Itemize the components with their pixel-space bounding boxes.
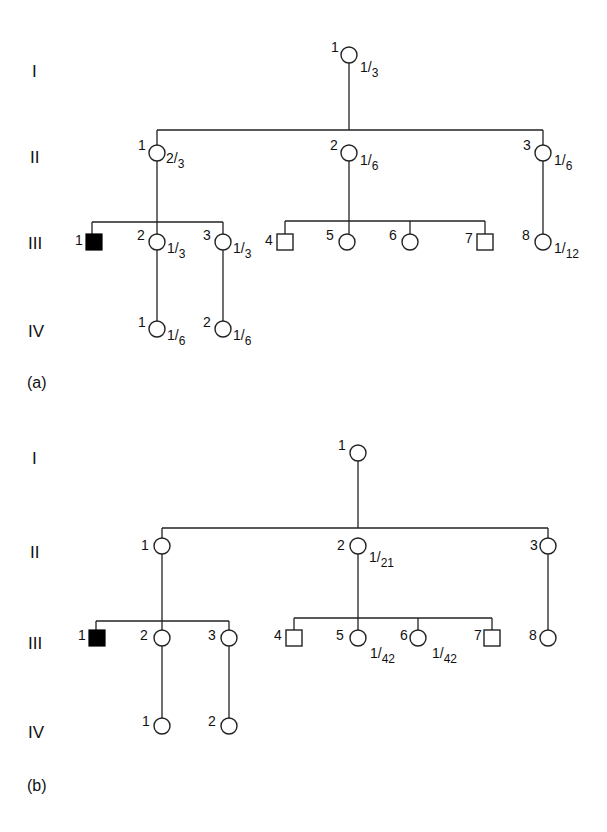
individual-number: 4 xyxy=(265,232,273,248)
carrier-probability: 1/6 xyxy=(554,152,573,173)
carrier-probability: 1/6 xyxy=(167,327,186,348)
individual-III-4[interactable]: 4 xyxy=(274,627,302,646)
individual-III-6[interactable]: 6 1/42 xyxy=(400,627,457,666)
female-symbol xyxy=(535,145,551,161)
generation-label-III: III xyxy=(28,634,42,653)
individual-II-3[interactable]: 3 xyxy=(530,537,556,554)
individual-number: 1 xyxy=(331,39,339,55)
individual-number: 7 xyxy=(474,627,482,643)
generation-label-I: I xyxy=(32,62,37,81)
affected-male-symbol xyxy=(89,630,105,646)
individual-number: 2 xyxy=(337,537,345,553)
individual-number: 1 xyxy=(78,627,86,643)
individual-III-6[interactable]: 6 xyxy=(389,227,418,250)
individual-number: 8 xyxy=(529,627,537,643)
individual-III-2[interactable]: 2 xyxy=(140,627,170,646)
female-symbol xyxy=(149,145,165,161)
pedigree-lines-b xyxy=(96,461,548,718)
carrier-probability: 1/42 xyxy=(432,645,457,666)
female-symbol xyxy=(149,234,165,250)
generation-label-II: II xyxy=(30,543,39,562)
female-symbol xyxy=(149,321,165,337)
carrier-probability: 1/3 xyxy=(360,59,379,80)
generation-label-I: I xyxy=(32,449,37,468)
female-symbol xyxy=(221,630,237,646)
female-symbol xyxy=(339,234,355,250)
individual-number: 2 xyxy=(208,713,216,729)
male-symbol xyxy=(484,630,500,646)
individual-number: 3 xyxy=(208,627,216,643)
individual-number: 1 xyxy=(75,232,83,248)
female-symbol xyxy=(215,321,231,337)
individual-III-8[interactable]: 8 xyxy=(529,627,556,646)
individual-III-5[interactable]: 5 xyxy=(326,227,355,250)
female-symbol xyxy=(154,630,170,646)
carrier-probability: 1/42 xyxy=(370,645,395,666)
female-symbol xyxy=(535,234,551,250)
individual-number: 3 xyxy=(530,537,538,553)
female-symbol xyxy=(350,630,366,646)
individual-IV-2[interactable]: 2 xyxy=(208,713,237,734)
individual-number: 1 xyxy=(138,314,146,330)
individual-IV-1[interactable]: 1 1/6 xyxy=(138,314,186,348)
individual-number: 7 xyxy=(465,230,473,246)
individual-II-3[interactable]: 3 1/6 xyxy=(523,137,573,173)
individual-III-1[interactable]: 1 xyxy=(78,627,105,646)
female-symbol xyxy=(154,538,170,554)
individual-number: 1 xyxy=(141,537,149,553)
individual-III-3[interactable]: 3 1/3 xyxy=(203,227,252,261)
male-symbol xyxy=(277,234,293,250)
individual-III-7[interactable]: 7 xyxy=(474,627,500,646)
individual-III-2[interactable]: 2 1/3 xyxy=(137,227,186,261)
carrier-probability: 1/3 xyxy=(167,240,186,261)
individual-I-1[interactable]: 1 1/3 xyxy=(331,39,379,80)
carrier-probability: 1/12 xyxy=(554,240,579,261)
individual-II-2[interactable]: 2 1/21 xyxy=(337,537,394,570)
female-symbol xyxy=(540,538,556,554)
individual-III-5[interactable]: 5 1/42 xyxy=(336,627,395,666)
individual-IV-1[interactable]: 1 xyxy=(142,713,170,734)
pedigree-lines-a xyxy=(92,63,543,321)
panel-label-b: (b) xyxy=(27,777,47,794)
individual-III-7[interactable]: 7 xyxy=(465,230,493,250)
carrier-probability: 1/6 xyxy=(233,327,252,348)
individual-number: 1 xyxy=(142,713,150,729)
individual-number: 2 xyxy=(140,627,148,643)
individual-number: 5 xyxy=(336,627,344,643)
male-symbol xyxy=(477,234,493,250)
individual-III-1[interactable]: 1 xyxy=(75,232,102,250)
individual-number: 1 xyxy=(138,137,146,153)
individual-III-8[interactable]: 8 1/12 xyxy=(522,227,579,261)
female-symbol xyxy=(350,538,366,554)
individual-number: 2 xyxy=(330,137,338,153)
individual-I-1[interactable]: 1 xyxy=(338,437,366,461)
generation-label-IV: IV xyxy=(28,322,45,341)
individual-number: 5 xyxy=(326,227,334,243)
individual-II-1[interactable]: 1 2/3 xyxy=(138,137,185,171)
individual-IV-2[interactable]: 2 1/6 xyxy=(203,314,252,348)
individual-III-4[interactable]: 4 xyxy=(265,232,293,250)
carrier-probability: 2/3 xyxy=(166,150,185,171)
female-symbol xyxy=(540,630,556,646)
female-symbol xyxy=(341,145,357,161)
female-symbol xyxy=(215,234,231,250)
individual-II-1[interactable]: 1 xyxy=(141,537,170,554)
pedigree-panel-a: I II III IV xyxy=(27,39,579,391)
carrier-probability: 1/6 xyxy=(360,152,379,173)
individual-number: 4 xyxy=(274,627,282,643)
carrier-probability: 1/21 xyxy=(369,549,394,570)
individual-number: 6 xyxy=(389,227,397,243)
generation-label-IV: IV xyxy=(28,723,45,742)
female-symbol xyxy=(341,47,357,63)
individual-number: 3 xyxy=(203,227,211,243)
pedigree-figure: I II III IV xyxy=(0,0,607,832)
individual-number: 6 xyxy=(400,627,408,643)
carrier-probability: 1/3 xyxy=(233,240,252,261)
individual-number: 3 xyxy=(523,137,531,153)
individual-number: 2 xyxy=(203,314,211,330)
affected-male-symbol xyxy=(86,234,102,250)
female-symbol xyxy=(410,630,426,646)
female-symbol xyxy=(402,234,418,250)
individual-III-3[interactable]: 3 xyxy=(208,627,237,646)
individual-II-2[interactable]: 2 1/6 xyxy=(330,137,379,173)
